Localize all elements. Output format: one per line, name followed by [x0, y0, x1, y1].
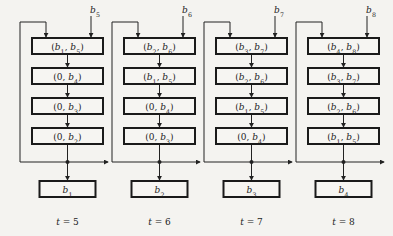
pipeline-diagram: b5(b1, b5)(0, b4)(0, b3)(0, b2)b1t = 5b6… [0, 0, 393, 236]
input-label: b8 [366, 5, 376, 18]
input-label: b7 [274, 5, 284, 18]
input-label: b5 [90, 5, 100, 18]
time-label: t = 8 [332, 217, 355, 227]
column-t7: b7(b3, b7)(b2, b6)(b1, b5)(0, b4)b3t = 7 [204, 5, 292, 227]
column-t6: b6(b2, b6)(b1, b5)(0, b4)(0, b3)b2t = 6 [112, 5, 200, 227]
column-t5: b5(b1, b5)(0, b4)(0, b3)(0, b2)b1t = 5 [20, 5, 108, 227]
column-t8: b8(b4, b8)(b3, b7)(b2, b6)(b1, b5)b4t = … [296, 5, 384, 227]
time-label: t = 6 [148, 217, 171, 227]
input-label: b6 [182, 5, 192, 18]
time-label: t = 5 [56, 217, 79, 227]
time-label: t = 7 [240, 217, 263, 227]
